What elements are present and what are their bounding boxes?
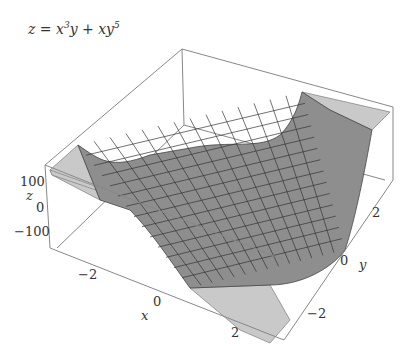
y-tick-neg2: −2: [307, 306, 326, 321]
z-tick-0: 0: [36, 200, 44, 215]
x-axis-label: x: [141, 308, 149, 323]
z-axis-label: z: [25, 188, 33, 203]
z-tick-neg100: −100: [14, 224, 50, 239]
y-tick-0: 0: [340, 253, 348, 268]
z-axis: 100 0 −100 z: [14, 174, 50, 239]
y-tick-2: 2: [372, 205, 380, 220]
surface: [78, 92, 372, 288]
y-axis-label: y: [358, 257, 367, 272]
x-tick-0: 0: [153, 294, 161, 309]
x-tick-2: 2: [231, 325, 239, 340]
surface-plot: 100 0 −100 z −2 0 2 x −2 0 2 y: [0, 0, 415, 362]
x-tick-neg2: −2: [78, 267, 97, 282]
z-tick-100: 100: [20, 174, 45, 189]
